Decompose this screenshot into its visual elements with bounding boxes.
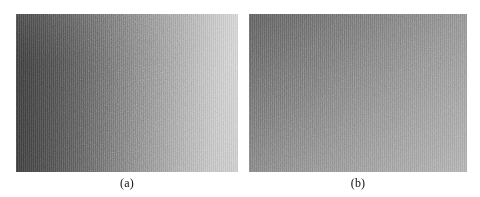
panel-b-gradient [249, 14, 467, 172]
figure-container: (a) (b) [0, 0, 480, 197]
figure-panel-b [249, 14, 467, 172]
panel-a-gradient [16, 14, 238, 172]
grayscale-image-a [16, 14, 238, 172]
panel-b-caption: (b) [249, 176, 467, 190]
grayscale-image-b [249, 14, 467, 172]
panel-a-caption: (a) [16, 176, 238, 190]
figure-panel-a [16, 14, 238, 172]
